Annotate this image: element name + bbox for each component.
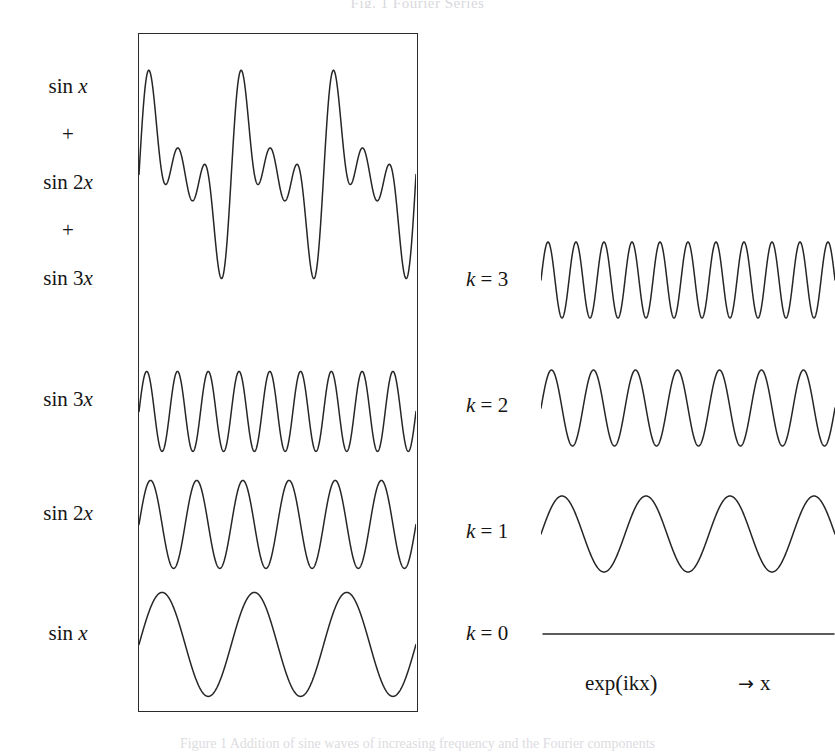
left-waveforms-svg [139,34,416,710]
exp-prefix: exp [585,671,615,695]
exp-close-paren: ) [650,671,658,696]
label-k-2: k = 2 [466,395,540,416]
label-sin-3x: sin 3x [8,389,128,410]
waveform-sin-x-sin-2x-sin-3x [139,70,416,278]
label-sin-x: sin x [8,623,128,644]
exp-ikx-label: exp(ikx) [585,671,658,697]
exp-arg: ikx [623,671,650,695]
right-waveforms-svg [541,33,835,673]
waveform-sin-2x [139,480,416,568]
axis-caption-row: exp(ikx) →x [541,668,835,702]
label-sum-sin-3x: sin 3x [8,268,128,289]
figure-header-strip: Fig. 1 Fourier Series [0,0,835,8]
right-basis-panel [541,33,835,673]
waveform-k-2 [541,370,835,446]
label-sum-sin-2x: sin 2x [8,172,128,193]
figure-footer-strip: Figure 1 Addition of sine waves of incre… [0,734,835,752]
waveform-sin-3x [139,371,416,451]
label-k-3: k = 3 [466,269,540,290]
x-axis-arrow-label: →x [738,671,770,696]
x-axis-variable: x [760,671,771,695]
label-k-1: k = 1 [466,521,540,542]
label-plus-1: + [8,124,128,145]
right-arrow-icon: → [738,672,760,694]
waveform-sin-x [139,592,416,696]
waveform-k-1 [541,496,835,572]
exp-open-paren: ( [615,671,623,696]
label-sum-sin-x: sin x [8,76,128,97]
label-plus-2: + [8,220,128,241]
label-sin-2x: sin 2x [8,503,128,524]
waveform-k-3 [541,242,835,318]
figure-header-text: Fig. 1 Fourier Series [351,0,485,8]
figure-footer-caption: Figure 1 Addition of sine waves of incre… [180,736,655,751]
label-k-0: k = 0 [466,623,540,644]
left-plot-frame [138,33,418,712]
